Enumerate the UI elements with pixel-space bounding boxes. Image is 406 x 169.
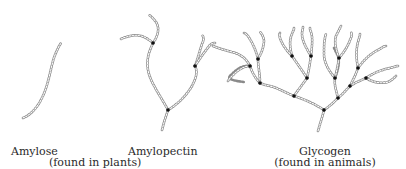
animals-note-label: (found in animals) <box>270 157 380 169</box>
branch-point <box>193 64 197 68</box>
branch-point <box>336 96 340 100</box>
plants-note-label: (found in plants) <box>49 157 141 169</box>
branch-point <box>248 64 252 68</box>
branch-point <box>292 94 296 98</box>
branch-point <box>309 54 313 58</box>
branch-point <box>356 66 360 70</box>
amylopectin-label: Amylopectin <box>128 146 197 158</box>
branch-point <box>166 108 170 112</box>
branch-point <box>258 81 262 85</box>
amylose-chain <box>23 43 61 118</box>
branch-point <box>364 76 368 80</box>
branch-point <box>348 84 352 88</box>
branch-point <box>305 76 309 80</box>
amylopectin-chain <box>121 15 215 130</box>
branch-point <box>322 108 326 112</box>
branch-point <box>290 54 294 58</box>
branch-point <box>256 57 260 61</box>
glycogen-chain <box>213 26 398 131</box>
branch-point <box>337 56 341 60</box>
polysaccharide-diagram <box>0 0 406 169</box>
branch-point <box>151 41 155 45</box>
branch-point <box>333 76 337 80</box>
